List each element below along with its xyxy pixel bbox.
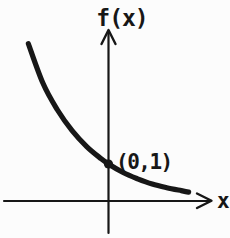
function-graph-figure: f(x) x (0,1) (0, 0, 230, 238)
x-axis-label: x (217, 189, 230, 213)
point-marker-dot (104, 159, 113, 168)
figure-background (0, 0, 230, 238)
point-label: (0,1) (116, 150, 172, 174)
y-axis-label: f(x) (96, 5, 147, 31)
plot-canvas: f(x) x (0,1) (0, 0, 230, 238)
